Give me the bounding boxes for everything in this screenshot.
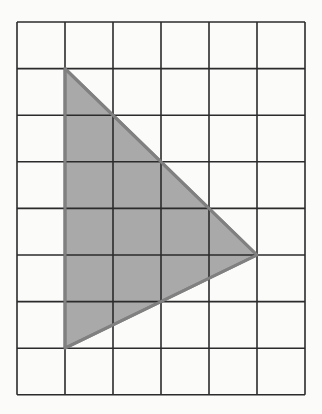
grid-triangle-diagram [0,0,322,414]
grid-lines-overlay [17,22,305,395]
